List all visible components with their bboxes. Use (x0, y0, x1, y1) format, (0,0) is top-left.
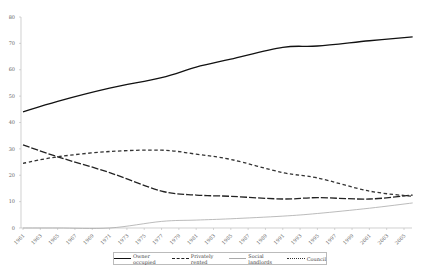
series-line-owner-occupied (23, 37, 413, 112)
legend-label: Council (307, 256, 326, 262)
series-line-council (23, 150, 413, 196)
x-tick-label: 1989 (255, 232, 268, 245)
y-tick-label: 0 (12, 225, 15, 231)
x-tick-label: 1997 (324, 232, 337, 245)
x-tick-label: 2005 (393, 232, 406, 245)
x-tick-label: 2003 (376, 232, 389, 245)
x-tick-label: 1999 (342, 232, 355, 245)
y-tick-label: 10 (9, 198, 15, 204)
x-tick-label: 1977 (151, 232, 164, 245)
x-tick-label: 2001 (359, 232, 372, 245)
long-dash-swatch-icon (172, 258, 189, 259)
legend-label: Privately rented (191, 253, 230, 265)
x-tick-label: 1995 (307, 232, 320, 245)
legend-item-social-landlords: Social landlords (229, 253, 286, 265)
line-chart: 0102030405060708019611963196519671969197… (0, 0, 426, 271)
short-dash-swatch-icon (287, 258, 305, 259)
x-tick-label: 1965 (47, 232, 60, 245)
x-tick-label: 1975 (134, 232, 147, 245)
solid-line-swatch-icon (114, 258, 131, 259)
legend-label: Social landlords (248, 253, 286, 265)
legend-item-owner-occupied: Owner occupied (114, 253, 172, 265)
x-tick-label: 1991 (272, 232, 285, 245)
x-tick-label: 1963 (30, 232, 43, 245)
legend: Owner occupied Privately rented Social l… (113, 252, 327, 265)
x-tick-label: 1971 (99, 232, 112, 245)
x-tick-label: 1983 (203, 232, 216, 245)
x-tick-label: 1969 (82, 232, 95, 245)
x-tick-label: 1973 (116, 232, 129, 245)
axes: 0102030405060708019611963196519671969197… (9, 14, 412, 246)
y-tick-label: 50 (9, 93, 15, 99)
legend-label: Owner occupied (133, 253, 172, 265)
y-tick-label: 40 (9, 119, 15, 125)
x-tick-label: 1961 (12, 232, 25, 245)
x-tick-label: 1985 (220, 232, 233, 245)
series-line-social-landlords (23, 203, 413, 229)
legend-item-council: Council (287, 256, 326, 262)
x-tick-label: 1981 (186, 232, 199, 245)
series-line-privately-rented (23, 145, 413, 199)
x-tick-label: 1967 (64, 232, 77, 245)
y-tick-label: 60 (9, 66, 15, 72)
thin-line-swatch-icon (229, 258, 246, 259)
x-tick-label: 1979 (168, 232, 181, 245)
y-tick-label: 20 (9, 172, 15, 178)
y-tick-label: 70 (9, 40, 15, 46)
x-tick-label: 1987 (238, 232, 251, 245)
y-tick-label: 80 (9, 14, 15, 20)
legend-item-privately-rented: Privately rented (172, 253, 229, 265)
series-lines (23, 37, 413, 229)
y-tick-label: 30 (9, 146, 15, 152)
x-tick-label: 1993 (290, 232, 303, 245)
